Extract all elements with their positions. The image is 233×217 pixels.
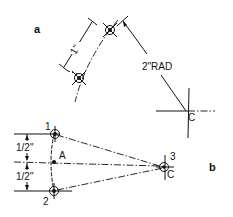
part-a-label: a [34, 23, 41, 35]
hole-lower-icon [72, 71, 86, 85]
dimension-chord: 1" [59, 18, 97, 74]
part-b: 1/2" 1/2" 1 A 2 [14, 121, 216, 207]
dimension-lower: 1/2" [15, 163, 39, 190]
part-b-label: b [209, 161, 216, 173]
dimension-upper: 1/2" [15, 134, 39, 161]
part-a-center-label: C [188, 112, 195, 123]
center-crosshair-icon [156, 88, 215, 138]
dimension-radius: 2"RAD [117, 16, 186, 111]
point-1-label: 1 [45, 121, 51, 132]
radius-dimension-text: 2"RAD [142, 61, 172, 72]
technical-drawing: a 1" [0, 0, 233, 217]
arc-centerline [75, 20, 118, 102]
hole-top-icon [103, 23, 117, 37]
lower-dimension-text: 1/2" [16, 171, 34, 182]
part-a: a 1" [34, 16, 215, 138]
point-2-label: 2 [43, 196, 49, 207]
midpoint-a-icon [52, 160, 56, 164]
upper-dimension-text: 1/2" [16, 142, 34, 153]
point-3-label: 3 [170, 151, 176, 162]
midpoint-a-label: A [59, 150, 66, 161]
part-b-center-label: C [167, 169, 174, 180]
